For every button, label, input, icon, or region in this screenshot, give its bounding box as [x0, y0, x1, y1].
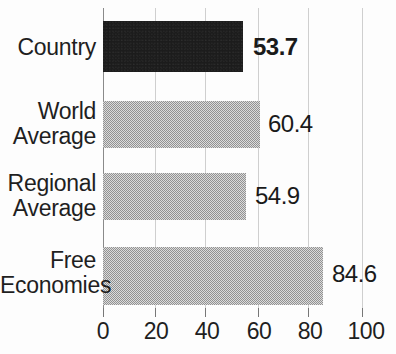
category-label-free-economies: FreeEconomies — [0, 248, 96, 298]
bar-country — [103, 21, 243, 72]
bar-regional-average — [103, 173, 246, 220]
tick-20 — [155, 308, 156, 317]
tick-40 — [205, 308, 206, 317]
category-label-regional-average-line2: Average — [13, 195, 96, 221]
bar-chart: Country WorldAverage RegionalAverage Fre… — [0, 0, 396, 354]
xtick-label-20: 20 — [144, 318, 169, 345]
value-label-free-economies: 84.6 — [332, 260, 377, 288]
category-label-world-average-line1: World — [38, 98, 96, 124]
value-label-country: 53.7 — [253, 33, 298, 61]
category-label-world-average-line2: Average — [13, 123, 96, 149]
value-label-world-average: 60.4 — [268, 110, 313, 138]
tick-60 — [258, 308, 259, 317]
xtick-label-80: 80 — [298, 318, 323, 345]
tick-100 — [362, 308, 363, 317]
category-label-free-economies-line2: Economies — [0, 272, 111, 298]
value-label-regional-average: 54.9 — [255, 182, 300, 210]
category-label-regional-average: RegionalAverage — [0, 171, 96, 221]
xtick-label-0: 0 — [97, 318, 109, 345]
tick-0 — [103, 308, 104, 317]
xtick-label-40: 40 — [195, 318, 220, 345]
category-label-country: Country — [0, 35, 96, 60]
xtick-label-60: 60 — [247, 318, 272, 345]
category-label-world-average: WorldAverage — [0, 99, 96, 149]
category-label-country-line1: Country — [18, 34, 96, 60]
tick-80 — [308, 308, 309, 317]
xtick-label-100: 100 — [348, 318, 385, 345]
bar-world-average — [103, 101, 260, 148]
category-label-free-economies-line1: Free — [50, 247, 96, 273]
category-label-regional-average-line1: Regional — [8, 170, 96, 196]
bar-free-economies — [103, 247, 323, 305]
